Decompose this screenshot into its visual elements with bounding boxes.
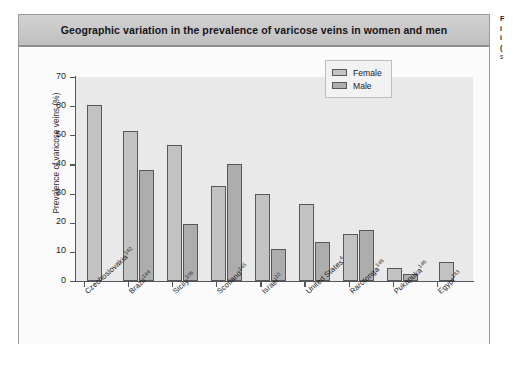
side-caption-fragment: Fii(s [500, 14, 518, 62]
bar-male [139, 170, 154, 281]
y-axis-tick-label: 10 [56, 245, 66, 255]
y-axis-tick-mark [70, 164, 75, 165]
y-axis-tick: 20 [19, 223, 75, 224]
y-axis-line [75, 76, 76, 282]
y-axis-tick: 30 [19, 194, 75, 195]
legend-label-male: Male [353, 81, 372, 91]
bar-female [343, 234, 358, 281]
side-caption-line: i [500, 24, 518, 34]
side-caption-line: i [500, 33, 518, 43]
y-axis-tick: 70 [19, 77, 75, 78]
figure-title: Geographic variation in the prevalence o… [61, 24, 448, 36]
y-axis-tick: 10 [19, 252, 75, 253]
y-axis-tick-label: 70 [56, 71, 66, 81]
side-caption-line: F [500, 14, 518, 24]
bar-female [299, 204, 314, 281]
y-axis-tick: 0 [19, 281, 75, 282]
legend-swatch-male-icon [332, 82, 347, 89]
y-axis-tick-mark [70, 77, 75, 78]
y-axis-tick-label: 50 [56, 129, 66, 139]
y-axis-tick-label: 60 [56, 100, 66, 110]
y-axis-tick-label: 0 [61, 275, 66, 285]
y-axis-tick: 50 [19, 135, 75, 136]
y-axis-tick: 40 [19, 164, 75, 165]
y-axis-tick-mark [70, 135, 75, 136]
figure-title-bar: Geographic variation in the prevalence o… [19, 15, 489, 47]
legend-item-male: Male [332, 79, 382, 92]
y-axis-tick-mark [70, 106, 75, 107]
bar-female [387, 268, 402, 281]
chart-legend: Female Male [325, 60, 392, 98]
y-axis-tick-label: 30 [56, 187, 66, 197]
y-axis-tick-mark [70, 194, 75, 195]
y-axis-tick-label: 40 [56, 158, 66, 168]
figure-frame: Geographic variation in the prevalence o… [18, 14, 490, 344]
y-axis-tick: 60 [19, 106, 75, 107]
side-caption-line: s [500, 52, 518, 62]
bar-female [87, 105, 102, 281]
y-axis-tick-label: 20 [56, 216, 66, 226]
y-axis-tick-mark [70, 223, 75, 224]
chart-canvas: Prevalence of varicose veins (%) 0102030… [19, 48, 489, 344]
legend-item-female: Female [332, 66, 382, 79]
bar-female [167, 145, 182, 281]
bar-female [211, 186, 226, 281]
y-axis-tick-mark [70, 281, 75, 282]
legend-swatch-female-icon [332, 69, 347, 76]
bar-female [255, 194, 270, 281]
legend-label-female: Female [353, 68, 382, 78]
side-caption-line: ( [500, 43, 518, 53]
y-axis-tick-mark [70, 252, 75, 253]
